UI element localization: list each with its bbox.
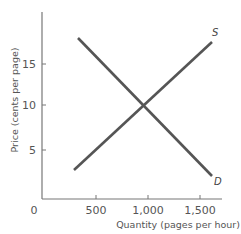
x-tick-label: 1,000 [132, 204, 164, 217]
y-tick-label: 10 [22, 99, 36, 112]
y-tick-label: 5 [29, 144, 36, 157]
x-tick-label: 1,500 [184, 204, 216, 217]
y-axis-title: Price (cents per page) [9, 48, 20, 153]
x-axis-title: Quantity (pages per hour) [116, 219, 240, 230]
origin-label: 0 [31, 204, 38, 217]
y-tick-label: 15 [22, 58, 36, 71]
supply-label: S [212, 27, 219, 38]
demand-label: D [214, 176, 222, 187]
demand-curve [78, 38, 212, 176]
supply-curve [74, 42, 212, 170]
supply-demand-chart: 5 10 15 500 1,000 1,500 0 Quantity (page… [0, 0, 241, 234]
x-tick-label: 500 [86, 204, 107, 217]
